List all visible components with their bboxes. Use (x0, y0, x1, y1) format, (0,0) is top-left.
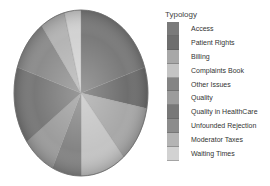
pie-chart (0, 0, 162, 186)
legend-item-other-issues: Other Issues (162, 78, 270, 92)
legend-list: Access Patient Rights Billing Complaints… (162, 22, 270, 161)
legend-swatch (167, 133, 179, 147)
legend-label: Unfounded Rejection (191, 119, 256, 133)
chart-legend: Typology Access Patient Rights Billing C… (162, 8, 270, 161)
legend-swatch (167, 119, 179, 133)
legend-item-waiting-times: Waiting Times (162, 147, 270, 161)
legend-swatch (167, 22, 179, 36)
legend-swatch (167, 105, 179, 119)
legend-swatch (167, 91, 179, 105)
legend-label: Quality in HealthCare (191, 105, 258, 119)
legend-label: Waiting Times (191, 147, 235, 161)
legend-item-patient-rights: Patient Rights (162, 36, 270, 50)
legend-swatch (167, 36, 179, 50)
legend-label: Patient Rights (191, 36, 235, 50)
legend-label: Other Issues (191, 78, 231, 92)
legend-swatch (167, 50, 179, 64)
legend-label: Access (191, 22, 214, 36)
pie-shading (14, 10, 148, 176)
legend-item-complaints-book: Complaints Book (162, 64, 270, 78)
legend-item-unfounded-rejection: Unfounded Rejection (162, 119, 270, 133)
legend-label: Quality (191, 91, 213, 105)
legend-item-billing: Billing (162, 50, 270, 64)
legend-label: Complaints Book (191, 64, 244, 78)
legend-label: Billing (191, 50, 210, 64)
legend-swatch (167, 64, 179, 78)
legend-swatch (167, 147, 179, 161)
legend-item-quality: Quality (162, 91, 270, 105)
legend-swatch (167, 78, 179, 92)
legend-title: Typology (165, 8, 270, 22)
legend-item-quality-in-healthcare: Quality in HealthCare (162, 105, 270, 119)
legend-label: Moderator Taxes (191, 133, 243, 147)
legend-item-moderator-taxes: Moderator Taxes (162, 133, 270, 147)
legend-item-access: Access (162, 22, 270, 36)
